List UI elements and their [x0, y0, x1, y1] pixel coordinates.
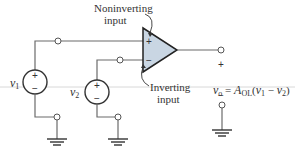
opamp-plus-sign: + [146, 36, 152, 47]
noninverting-label-line1: Noninverting [94, 2, 153, 14]
inverting-label-line1: Inverting [150, 81, 191, 93]
v2-minus-sign: − [94, 93, 100, 104]
v1-ground-terminal [54, 114, 60, 120]
output-equation: vo = AOL(v1 − v2) [213, 83, 290, 98]
inverting-input-terminal [117, 57, 123, 63]
v1-plus-sign: + [32, 70, 38, 81]
output-terminal [218, 47, 224, 53]
v1-label: v1 [10, 76, 19, 91]
output-ground-terminal [219, 102, 225, 108]
inverting-label-line2: input [157, 93, 180, 105]
opamp-minus-sign: − [146, 55, 152, 66]
v1-ground-wire [35, 94, 54, 117]
v2-ground-icon [108, 139, 128, 145]
v2-ground-terminal [115, 114, 121, 120]
noninverting-input-wire [35, 41, 143, 70]
v2-ground-wire [97, 104, 115, 117]
v2-plus-sign: + [94, 80, 100, 91]
output-plus-sign: + [218, 59, 224, 70]
opamp-circuit-diagram: + − + − vo = AOL(v1 − v2) + − v1 + − v2 … [0, 0, 295, 155]
v1-minus-sign: − [32, 83, 38, 94]
v1-ground-icon [47, 139, 67, 145]
output-ground-icon [212, 130, 232, 136]
noninverting-label-line2: input [104, 14, 127, 26]
noninverting-input-terminal [55, 38, 61, 44]
